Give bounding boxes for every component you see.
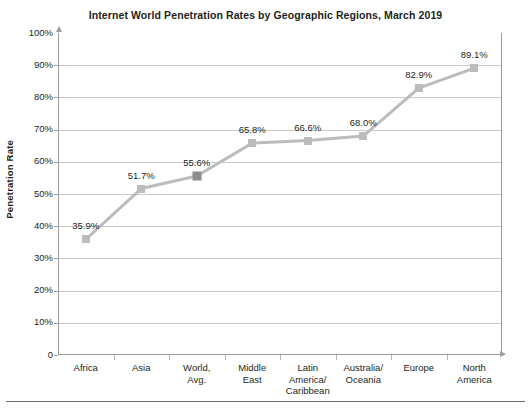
series-line	[58, 33, 502, 355]
data-point-label: 66.6%	[294, 122, 321, 133]
data-point-marker[interactable]	[137, 185, 145, 193]
y-axis-tick-label: 70%	[0, 123, 53, 134]
x-axis-tick-mark	[225, 355, 226, 360]
data-point-marker[interactable]	[192, 171, 201, 180]
data-point-label: 51.7%	[128, 170, 155, 181]
data-point-marker[interactable]	[470, 64, 478, 72]
data-point-marker[interactable]	[82, 235, 90, 243]
y-axis-tick-label: 60%	[0, 155, 53, 166]
y-axis-tick-label: 90%	[0, 59, 53, 70]
y-axis-tick-label: 50%	[0, 188, 53, 199]
x-axis-tick-mark	[169, 355, 170, 360]
data-point-marker[interactable]	[359, 132, 367, 140]
data-point-label: 82.9%	[405, 69, 432, 80]
chart-container: Internet World Penetration Rates by Geog…	[0, 0, 531, 410]
y-axis-title: Penetration Rate	[4, 140, 20, 219]
y-axis-tick-label: 0	[0, 349, 53, 360]
y-axis-tick-label: 100%	[0, 27, 53, 38]
y-axis-tick-label: 30%	[0, 252, 53, 263]
y-axis-tick-label: 40%	[0, 220, 53, 231]
data-point-label: 89.1%	[461, 49, 488, 60]
x-axis-category-label: NorthAmerica	[434, 362, 514, 385]
x-axis-tick-mark	[447, 355, 448, 360]
y-axis-arrow-icon	[56, 26, 62, 32]
x-axis-tick-mark	[280, 355, 281, 360]
data-point-label: 68.0%	[350, 117, 377, 128]
data-point-label: 55.6%	[183, 157, 210, 168]
x-axis-tick-mark	[114, 355, 115, 360]
x-axis-tick-mark	[336, 355, 337, 360]
data-point-marker[interactable]	[304, 137, 312, 145]
data-point-marker[interactable]	[248, 139, 256, 147]
x-axis-category-line: America	[434, 374, 514, 386]
y-axis-tick-mark	[54, 355, 58, 356]
data-point-label: 35.9%	[72, 220, 99, 231]
chart-title: Internet World Penetration Rates by Geog…	[0, 9, 531, 21]
y-axis-tick-label: 80%	[0, 91, 53, 102]
x-axis-category-line: North	[434, 362, 514, 374]
x-axis-tick-mark	[391, 355, 392, 360]
plot-area: 35.9%51.7%55.6%65.8%66.6%68.0%82.9%89.1%	[58, 33, 502, 355]
x-axis-category-line: Caribbean	[268, 385, 348, 397]
x-axis-category-line: Oceania	[323, 374, 403, 386]
footer-divider	[6, 401, 525, 402]
data-point-marker[interactable]	[415, 84, 423, 92]
y-axis-tick-label: 10%	[0, 316, 53, 327]
data-point-label: 65.8%	[239, 124, 266, 135]
y-axis-tick-label: 20%	[0, 284, 53, 295]
